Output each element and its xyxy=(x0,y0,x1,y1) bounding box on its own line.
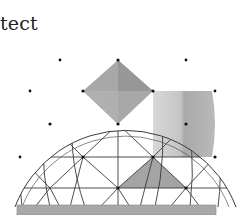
base-slab xyxy=(17,205,216,215)
shaded-panels xyxy=(83,60,215,188)
dome-drawing xyxy=(0,0,247,215)
geodesic-dome-figure: tect xyxy=(0,0,247,215)
